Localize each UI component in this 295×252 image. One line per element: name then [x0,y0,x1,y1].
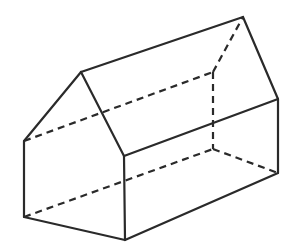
hidden-edges [24,17,278,217]
edge-front_top_right-to-back_top_right [124,99,278,156]
edge-front_bottom_right-to-back_bottom_right [125,173,278,240]
visible-edges [24,17,278,240]
edge-back_apex-to-back_top_right [243,17,278,99]
edge-front_bottom_right-to-front_bottom_left [24,217,125,240]
edge-front_top_right-to-front_bottom_right [124,156,125,240]
hidden-edge-back_bottom_left-to-back_bottom_right [213,149,278,173]
house-prism-figure [0,0,295,252]
hidden-edge-front_bottom_left-to-back_bottom_left [24,149,213,217]
edge-front_apex-to-back_apex [81,17,243,72]
prism-diagram [0,0,295,252]
edge-front_apex-to-front_top_right [81,72,124,156]
